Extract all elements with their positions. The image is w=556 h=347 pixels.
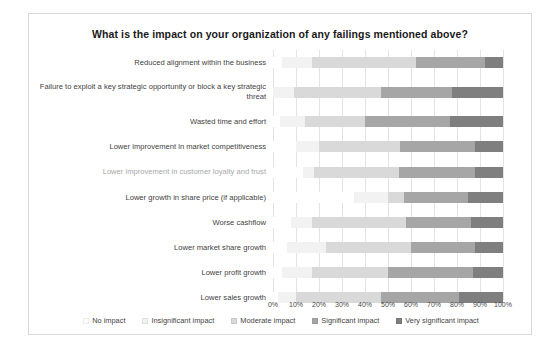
category-label: Wasted time and effort xyxy=(29,117,273,127)
bar-segment[interactable] xyxy=(273,87,294,98)
legend-label: Very significant impact xyxy=(405,316,479,325)
bar-segment[interactable] xyxy=(354,192,389,203)
bar-segment[interactable] xyxy=(475,242,503,253)
bar-rows: Reduced alignment within the businessFai… xyxy=(29,50,533,310)
chart-row: Lower improvement in market competitiven… xyxy=(29,134,533,159)
chart-title: What is the impact on your organization … xyxy=(29,28,531,40)
category-label: Lower improvement in market competitiven… xyxy=(29,142,273,152)
bar-segment[interactable] xyxy=(305,116,365,127)
bar-segment[interactable] xyxy=(296,141,319,152)
legend-item[interactable]: Moderate impact xyxy=(231,316,295,325)
bar-segment[interactable] xyxy=(416,57,485,68)
axis-tick-label: 20% xyxy=(312,301,326,308)
chart-row: Worse cashflow xyxy=(29,210,533,235)
chart-container: What is the impact on your organization … xyxy=(28,13,532,335)
axis-tick-label: 30% xyxy=(335,301,349,308)
legend-item[interactable]: Significant impact xyxy=(312,316,379,325)
chart-row: Lower market share growth xyxy=(29,235,533,260)
bar-segment[interactable] xyxy=(475,167,503,178)
stacked-bar[interactable] xyxy=(273,217,503,228)
bar-segment[interactable] xyxy=(291,217,312,228)
bar-segment[interactable] xyxy=(273,141,296,152)
legend-swatch-icon xyxy=(142,318,148,324)
bar-segment[interactable] xyxy=(273,167,303,178)
category-label: Lower sales growth xyxy=(29,293,273,303)
bar-segment[interactable] xyxy=(282,57,312,68)
category-label: Lower market share growth xyxy=(29,243,273,253)
legend-label: Moderate impact xyxy=(240,316,295,325)
bar-segment[interactable] xyxy=(280,116,305,127)
bar-segment[interactable] xyxy=(406,217,470,228)
legend-item[interactable]: Very significant impact xyxy=(396,316,479,325)
bar-segment[interactable] xyxy=(471,217,503,228)
stacked-bar[interactable] xyxy=(273,87,503,98)
chart-row: Lower improvement in customer loyalty an… xyxy=(29,159,533,185)
bar-segment[interactable] xyxy=(388,267,473,278)
axis-tick-label: 90% xyxy=(473,301,487,308)
bar-segment[interactable] xyxy=(294,87,381,98)
bar-segment[interactable] xyxy=(365,116,450,127)
bar-segment[interactable] xyxy=(273,116,280,127)
bar-segment[interactable] xyxy=(473,267,503,278)
bar-segment[interactable] xyxy=(475,141,503,152)
legend-swatch-icon xyxy=(231,318,237,324)
chart-row: Failure to exploit a key strategic oppor… xyxy=(29,75,533,109)
bar-segment[interactable] xyxy=(485,57,503,68)
bar-segment[interactable] xyxy=(388,192,404,203)
bar-segment[interactable] xyxy=(411,242,475,253)
bar-segment[interactable] xyxy=(273,267,282,278)
stacked-bar[interactable] xyxy=(273,242,503,253)
category-label: Lower growth in share price (if applicab… xyxy=(29,193,273,203)
bar-segment[interactable] xyxy=(450,116,503,127)
bar-segment[interactable] xyxy=(468,192,503,203)
legend-label: Significant impact xyxy=(321,316,379,325)
chart-row: Wasted time and effort xyxy=(29,109,533,134)
axis-tick-label: 10% xyxy=(289,301,303,308)
stacked-bar[interactable] xyxy=(273,116,503,127)
stacked-bar[interactable] xyxy=(273,192,503,203)
bar-segment[interactable] xyxy=(312,57,416,68)
stacked-bar[interactable] xyxy=(273,267,503,278)
bar-segment[interactable] xyxy=(282,267,312,278)
legend-label: Insignificant impact xyxy=(151,316,214,325)
category-label: Lower profit growth xyxy=(29,268,273,278)
chart-row: Lower profit growth xyxy=(29,260,533,285)
bar-segment[interactable] xyxy=(273,217,291,228)
bar-segment[interactable] xyxy=(400,141,476,152)
bar-segment[interactable] xyxy=(273,242,287,253)
chart-row: Lower growth in share price (if applicab… xyxy=(29,185,533,210)
axis-tick-label: 80% xyxy=(450,301,464,308)
bar-segment[interactable] xyxy=(319,141,400,152)
legend-item[interactable]: Insignificant impact xyxy=(142,316,214,325)
bar-segment[interactable] xyxy=(404,192,468,203)
legend-swatch-icon xyxy=(83,318,89,324)
stacked-bar[interactable] xyxy=(273,141,503,152)
x-axis: 0%10%20%30%40%50%60%70%80%90%100% xyxy=(273,301,503,315)
category-label: Failure to exploit a key strategic oppor… xyxy=(29,82,273,101)
bar-segment[interactable] xyxy=(312,267,388,278)
bar-segment[interactable] xyxy=(287,242,326,253)
bar-segment[interactable] xyxy=(303,167,315,178)
bar-segment[interactable] xyxy=(452,87,503,98)
bar-segment[interactable] xyxy=(273,57,282,68)
chart-row: Reduced alignment within the business xyxy=(29,50,533,75)
bar-segment[interactable] xyxy=(314,167,399,178)
axis-tick-label: 50% xyxy=(381,301,395,308)
legend-swatch-icon xyxy=(312,318,318,324)
bar-segment[interactable] xyxy=(326,242,411,253)
bar-segment[interactable] xyxy=(399,167,475,178)
legend-item[interactable]: No impact xyxy=(83,316,125,325)
axis-tick-label: 60% xyxy=(404,301,418,308)
stacked-bar[interactable] xyxy=(273,57,503,68)
bar-segment[interactable] xyxy=(273,192,354,203)
bar-segment[interactable] xyxy=(381,87,452,98)
category-label: Worse cashflow xyxy=(29,218,273,228)
bar-segment[interactable] xyxy=(312,217,406,228)
axis-tick-label: 70% xyxy=(427,301,441,308)
axis-tick-label: 0% xyxy=(268,301,278,308)
stacked-bar[interactable] xyxy=(273,167,503,178)
plot-area: Reduced alignment within the businessFai… xyxy=(29,50,533,300)
legend-label: No impact xyxy=(92,316,125,325)
category-label: Lower improvement in customer loyalty an… xyxy=(29,167,273,177)
axis-tick-label: 40% xyxy=(358,301,372,308)
